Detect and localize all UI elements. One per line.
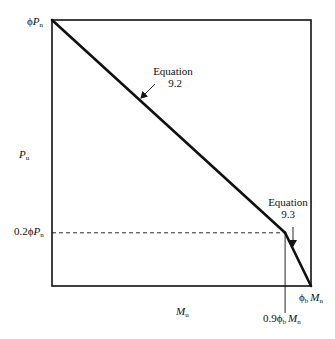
annotation-equation-9-2-line1: Equation xyxy=(153,65,193,77)
annotation-equation-9-2-line2: 9.2 xyxy=(168,77,182,89)
interaction-diagram: Equation 9.2 Equation 9.3 ϕPn Pu 0.2ϕPn … xyxy=(0,0,335,339)
arrow-equation-9-2-icon xyxy=(141,84,155,98)
tick-label-0-9-phib-mn: 0.9ϕbMn xyxy=(263,312,301,326)
plot-frame xyxy=(52,20,311,286)
tick-label-0-2-phi-pn: 0.2ϕPn xyxy=(14,225,44,239)
tick-label-phib-mn: ϕbMn xyxy=(299,291,323,305)
x-axis-label: Mu xyxy=(175,305,189,319)
y-axis-label: Pu xyxy=(18,148,30,162)
tick-label-phi-pn: ϕPn xyxy=(27,15,44,29)
annotation-equation-9-3-line2: 9.3 xyxy=(281,208,295,220)
curve-segment-equation-9-3 xyxy=(285,233,311,286)
curve-segment-equation-9-2 xyxy=(52,20,285,233)
annotation-equation-9-3-line1: Equation xyxy=(268,196,308,208)
